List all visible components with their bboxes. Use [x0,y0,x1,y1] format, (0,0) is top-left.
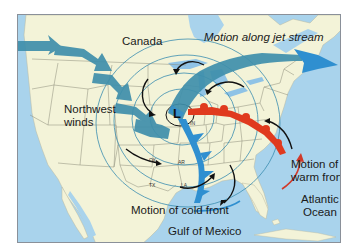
state-label-in: IN [190,121,195,126]
label-warm-front-1: Motion of [291,158,338,170]
label-canada: Canada [122,35,162,47]
state-label-ok: OK [149,158,156,163]
weather-map: Canada Motion along jet stream Northwest… [17,14,341,243]
state-label-la: LA [181,183,187,188]
label-gulf-of-mexico: Gulf of Mexico [168,225,242,237]
label-warm-front-2: warm front [291,171,341,183]
label-northwest-winds-1: Northwest [64,103,116,115]
label-atlantic-2: Ocean [303,206,337,218]
state-label-ar: AR [178,160,185,165]
label-northwest-winds-2: winds [64,116,93,128]
low-pressure-center: L [173,107,181,121]
label-atlantic-1: Atlantic [301,193,339,205]
state-label-tx: TX [149,183,155,188]
label-jet-stream: Motion along jet stream [204,31,324,43]
label-cold-front: Motion of cold front [131,204,229,216]
